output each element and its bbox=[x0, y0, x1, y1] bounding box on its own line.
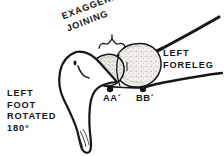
joining-brace bbox=[99, 35, 125, 48]
diagram-canvas: EXAGGERATED JOINING LEFT FORELEG LEFT FO… bbox=[0, 0, 224, 156]
left-foreleg-label: LEFT FORELEG bbox=[163, 48, 214, 71]
left-foot-rotated-caption: LEFT FOOT ROTATED 180° bbox=[7, 88, 56, 134]
junction-label-aa: AA´ bbox=[103, 92, 121, 103]
junction-label-bb: BB´ bbox=[136, 92, 154, 103]
